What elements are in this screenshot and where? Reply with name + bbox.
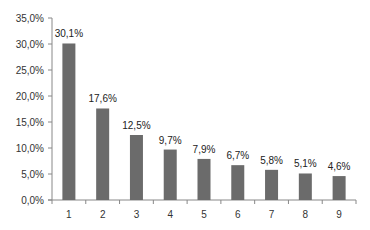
bar-value-label: 5,8%	[260, 155, 283, 166]
x-tick-label: 9	[336, 209, 342, 220]
x-tick-label: 2	[100, 209, 106, 220]
x-tick-label: 1	[66, 209, 72, 220]
bar-value-label: 4,6%	[328, 161, 351, 172]
bar	[198, 159, 211, 200]
bar-value-label: 9,7%	[159, 135, 182, 146]
bar	[164, 150, 177, 200]
y-axis: 0,0%5,0%10,0%15,0%20,0%25,0%30,0%35,0%	[16, 13, 52, 206]
bar	[130, 135, 143, 200]
bar	[333, 176, 346, 200]
x-tick-label: 8	[303, 209, 309, 220]
bar-value-label: 12,5%	[122, 120, 150, 131]
bar	[265, 170, 278, 200]
y-tick-label: 15,0%	[16, 117, 44, 128]
x-tick-label: 3	[134, 209, 140, 220]
bar-value-label: 5,1%	[294, 158, 317, 169]
bar	[299, 173, 312, 200]
y-tick-label: 5,0%	[21, 169, 44, 180]
x-tick-label: 6	[235, 209, 241, 220]
y-tick-label: 0,0%	[21, 195, 44, 206]
bar-chart: 0,0%5,0%10,0%15,0%20,0%25,0%30,0%35,0% 1…	[0, 0, 370, 230]
x-axis: 123456789	[48, 200, 356, 220]
y-tick-label: 35,0%	[16, 13, 44, 24]
y-tick-label: 30,0%	[16, 39, 44, 50]
x-tick-label: 4	[167, 209, 173, 220]
y-tick-label: 20,0%	[16, 91, 44, 102]
x-tick-label: 7	[269, 209, 275, 220]
bar-value-label: 7,9%	[193, 144, 216, 155]
bar	[62, 43, 75, 200]
bar	[96, 108, 109, 200]
bar-value-label: 6,7%	[226, 150, 249, 161]
y-tick-label: 10,0%	[16, 143, 44, 154]
bar-value-label: 17,6%	[88, 93, 116, 104]
bar	[231, 165, 244, 200]
bars	[62, 43, 345, 200]
x-tick-label: 5	[201, 209, 207, 220]
y-tick-label: 25,0%	[16, 65, 44, 76]
bar-value-label: 30,1%	[55, 28, 83, 39]
